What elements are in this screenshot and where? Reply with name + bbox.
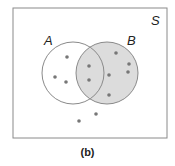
- point-a-only: [64, 80, 68, 84]
- point-outside: [94, 112, 98, 116]
- point-a-and-b: [87, 64, 91, 68]
- point-a-only: [65, 55, 69, 59]
- universe-label: S: [151, 13, 160, 28]
- point-a-only: [53, 75, 57, 79]
- set-b-label: B: [127, 33, 136, 48]
- point-b-only: [107, 73, 111, 77]
- venn-diagram: S A B: [0, 0, 175, 166]
- point-b-only: [114, 51, 118, 55]
- point-b-only: [107, 93, 111, 97]
- set-a-label: A: [43, 33, 53, 48]
- point-a-and-b: [87, 78, 91, 82]
- point-b-only: [127, 62, 131, 66]
- point-b-only: [126, 70, 130, 74]
- point-outside: [77, 119, 81, 123]
- figure-caption: (b): [0, 146, 175, 158]
